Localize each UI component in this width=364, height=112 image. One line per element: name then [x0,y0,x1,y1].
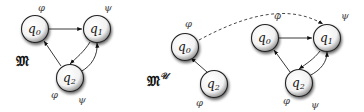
prop-q0-copy-phi: φ [274,10,281,21]
prop-q0-phi: φ [38,2,45,13]
prop-q2-copy-phi: φ [283,95,290,106]
edge-q1-q2 [70,42,90,64]
model-m-u: q0 q2 q0 q1 q2 φ φ φ ψ φ ψ 𝔐𝒰 [147,10,349,110]
model-m: q0 q1 q2 φ ψ φ ψ 𝔐 [16,2,112,105]
edge-q2-q0 [191,58,207,72]
node-q0: q0 [172,34,199,61]
kripke-model-diagram: q0 q1 q2 φ ψ φ ψ 𝔐 q0 [0,0,364,112]
node-q1-copy: q1 [314,25,341,52]
edge-q2-q0 [44,41,61,66]
node-q0: q0 [22,16,49,43]
node-q2: q2 [201,71,228,98]
prop-q1-copy-psi: ψ [341,10,349,21]
prop-q2-phi: φ [51,89,58,100]
model-label-m: 𝔐 [16,53,29,69]
edge-q2-q0-right [274,50,290,72]
edge-q2-q1 [80,43,97,72]
node-q2-copy: q2 [286,70,313,97]
edge-q1-q2-right [299,51,320,69]
node-q1: q1 [84,16,111,43]
node-q2: q2 [57,65,84,92]
prop-q2-copy-psi: ψ [311,99,319,110]
prop-q2-psi: ψ [78,94,86,105]
prop-q2-phi: φ [196,97,203,108]
node-q0-copy: q0 [252,25,279,52]
edge-q2-q1-right [309,52,327,76]
model-label-m-u: 𝔐𝒰 [147,71,171,89]
prop-q1-psi: ψ [104,2,112,13]
prop-q0-phi: φ [185,18,192,29]
